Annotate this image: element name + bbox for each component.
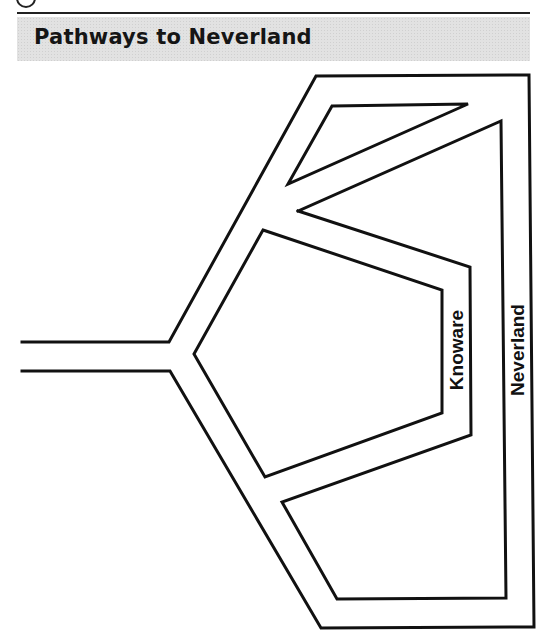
pathways-diagram: Knoware Neverland [0, 0, 547, 632]
neverland-label: Neverland [507, 304, 528, 396]
knoware-label: Knoware [446, 310, 467, 390]
knoware-pentagon-island [194, 230, 442, 477]
upper-triangle-island [288, 104, 468, 184]
neverland-inner-boundary [282, 121, 506, 599]
